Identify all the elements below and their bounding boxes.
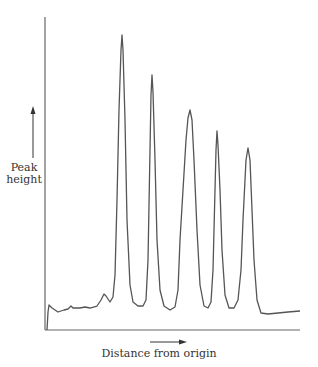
axes: [45, 17, 300, 330]
arrow-up-icon: [31, 106, 36, 114]
signal-trace: [47, 35, 300, 330]
chromatogram-chart: [0, 0, 318, 367]
y-axis-label-line-2: height: [4, 174, 44, 186]
x-axis-label: Distance from origin: [0, 347, 318, 360]
y-axis-label: Peak height: [4, 162, 44, 186]
arrow-right-icon: [179, 340, 187, 345]
